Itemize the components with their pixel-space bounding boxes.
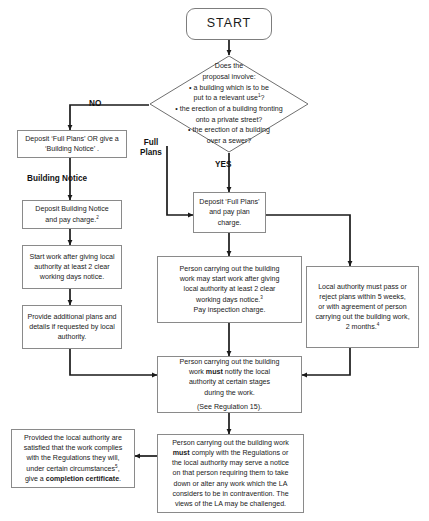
box-person-may-start-work-text-2: Pay inspection charge. — [180, 305, 280, 315]
decision-lead-2: proposal involve: — [154, 72, 304, 83]
box-completion-certificate: Provided the local authority aresatisfie… — [11, 429, 135, 488]
branch-label-no: NO — [89, 99, 101, 109]
decision-option-2: the erection of a buildingover a sewer? — [154, 125, 304, 146]
box-person-may-start-work: Person carrying out the buildingwork may… — [157, 256, 302, 323]
box-deposit-full-plans: Deposit ‘Full Plans’ and pay plan charge… — [193, 192, 266, 233]
branch-label-full-plans: Full Plans — [140, 138, 162, 159]
box-comply-regulations: Person carrying out the building workmus… — [157, 434, 304, 513]
box-local-authority-decision-text: Local authority must pass orreject plans… — [315, 282, 409, 332]
box-notify-stages-text-2: (See Regulation 15). — [180, 402, 280, 412]
decision-lead-1: Does the — [154, 61, 304, 72]
box-comply-regulations-text: Person carrying out the building workmus… — [172, 438, 289, 508]
decision-options: a building which is to beput to a releva… — [154, 83, 304, 147]
box-deposit-building-notice: Deposit Building Noticeand pay charge.2 — [22, 200, 122, 229]
box-notify-stages: Person carrying out the buildingwork mus… — [157, 356, 302, 413]
flowchart-canvas: START Does the proposal involve: a build… — [0, 0, 429, 521]
box-deposit-choice: Deposit ‘Full Plans’ OR give a ‘Building… — [17, 130, 127, 158]
box-completion-certificate-text: Provided the local authority aresatisfie… — [24, 433, 123, 483]
box-deposit-full-plans-text: Deposit ‘Full Plans’ and pay plan charge… — [197, 197, 262, 227]
start-label: START — [207, 15, 251, 33]
box-notify-stages-text: Person carrying out the buildingwork mus… — [180, 357, 280, 397]
box-deposit-building-notice-text: Deposit Building Noticeand pay charge.2 — [35, 204, 108, 224]
box-deposit-choice-text: Deposit ‘Full Plans’ OR give a ‘Building… — [21, 134, 123, 154]
box-local-authority-decision: Local authority must pass orreject plans… — [306, 266, 419, 348]
start-terminator: START — [186, 8, 272, 40]
branch-label-full-plans-line1: Full — [140, 138, 162, 148]
box-person-may-start-work-text: Person carrying out the buildingwork may… — [180, 264, 280, 304]
decision-text: Does the proposal involve: a building wh… — [149, 55, 309, 153]
box-provide-additional-plans-text: Provide additional plans and details if … — [26, 312, 118, 342]
decision-option-1: the erection of a building frontingonto … — [154, 104, 304, 125]
branch-label-building-notice: Building Notice — [27, 174, 87, 184]
decision-option-0: a building which is to beput to a releva… — [154, 83, 304, 104]
branch-label-full-plans-line2: Plans — [140, 148, 162, 158]
decision-diamond: Does the proposal involve: a building wh… — [149, 55, 309, 153]
box-start-work-notice: Start work after giving local authority … — [22, 245, 122, 289]
branch-label-yes: YES — [215, 160, 231, 170]
box-start-work-notice-text: Start work after giving local authority … — [26, 252, 118, 282]
box-provide-additional-plans: Provide additional plans and details if … — [22, 305, 122, 349]
